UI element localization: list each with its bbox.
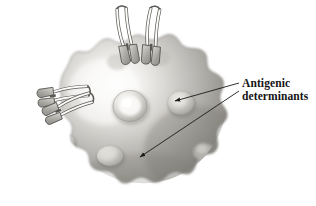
label-line-2: determinants <box>242 90 316 103</box>
cell-shadow-bottom <box>78 154 202 202</box>
figure-canvas <box>0 0 316 206</box>
antigenic-determinants-label: Antigenic determinants <box>242 77 316 102</box>
antigen-antibody-figure: Antigenic determinants <box>0 0 316 206</box>
label-line-1: Antigenic <box>242 77 316 90</box>
